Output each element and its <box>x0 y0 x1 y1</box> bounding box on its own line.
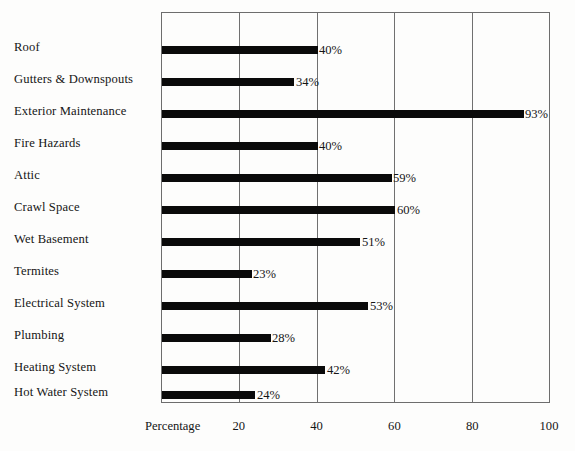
bar-value-label: 60% <box>397 204 420 217</box>
bar-hot-water-system <box>162 391 255 399</box>
bar-gutters-downspouts <box>162 78 294 86</box>
category-label: Fire Hazards <box>14 137 81 150</box>
bar-attic <box>162 174 392 182</box>
x-tick-label-100: 100 <box>540 420 559 433</box>
category-label: Plumbing <box>14 329 64 342</box>
category-label: Electrical System <box>14 297 105 310</box>
bar-wet-basement <box>162 238 360 246</box>
x-tick-label-60: 60 <box>388 420 401 433</box>
x-tick-label-80: 80 <box>466 420 479 433</box>
category-label: Crawl Space <box>14 201 80 214</box>
x-axis-title: Percentage <box>145 420 200 433</box>
bar-value-label: 40% <box>319 44 342 57</box>
bar-value-label: 24% <box>257 389 280 402</box>
x-axis: Percentage 20 40 60 80 100 <box>0 406 575 436</box>
bar-heating-system <box>162 366 325 374</box>
category-label: Termites <box>14 265 59 278</box>
category-label: Exterior Maintenance <box>14 105 126 118</box>
bar-value-label: 34% <box>296 76 319 89</box>
x-tick-label-20: 20 <box>233 420 246 433</box>
bar-chart: Roof Gutters & Downspouts Exterior Maint… <box>0 0 575 451</box>
bar-value-label: 28% <box>272 332 295 345</box>
category-label: Heating System <box>14 361 96 374</box>
category-label: Wet Basement <box>14 233 89 246</box>
category-label: Hot Water System <box>14 386 108 399</box>
bar-crawl-space <box>162 206 395 214</box>
gridline-80 <box>472 13 473 402</box>
bar-value-label: 93% <box>525 108 548 121</box>
plot-area: 40% 34% 93% 40% 59% 60% 51% 23% 53% 28% … <box>161 12 550 403</box>
bar-exterior-maintenance <box>162 110 524 118</box>
bar-roof <box>162 46 318 54</box>
category-label: Roof <box>14 41 40 54</box>
category-label: Attic <box>14 169 40 182</box>
bar-value-label: 53% <box>370 300 393 313</box>
bar-value-label: 42% <box>327 364 350 377</box>
category-axis-labels: Roof Gutters & Downspouts Exterior Maint… <box>0 0 158 451</box>
bar-value-label: 59% <box>393 172 416 185</box>
bar-value-label: 51% <box>362 236 385 249</box>
category-label: Gutters & Downspouts <box>14 73 133 86</box>
bar-termites <box>162 270 252 278</box>
bar-electrical-system <box>162 302 368 310</box>
bar-plumbing <box>162 334 271 342</box>
bar-fire-hazards <box>162 142 318 150</box>
bar-value-label: 23% <box>253 268 276 281</box>
x-tick-label-40: 40 <box>310 420 323 433</box>
bar-value-label: 40% <box>319 140 342 153</box>
